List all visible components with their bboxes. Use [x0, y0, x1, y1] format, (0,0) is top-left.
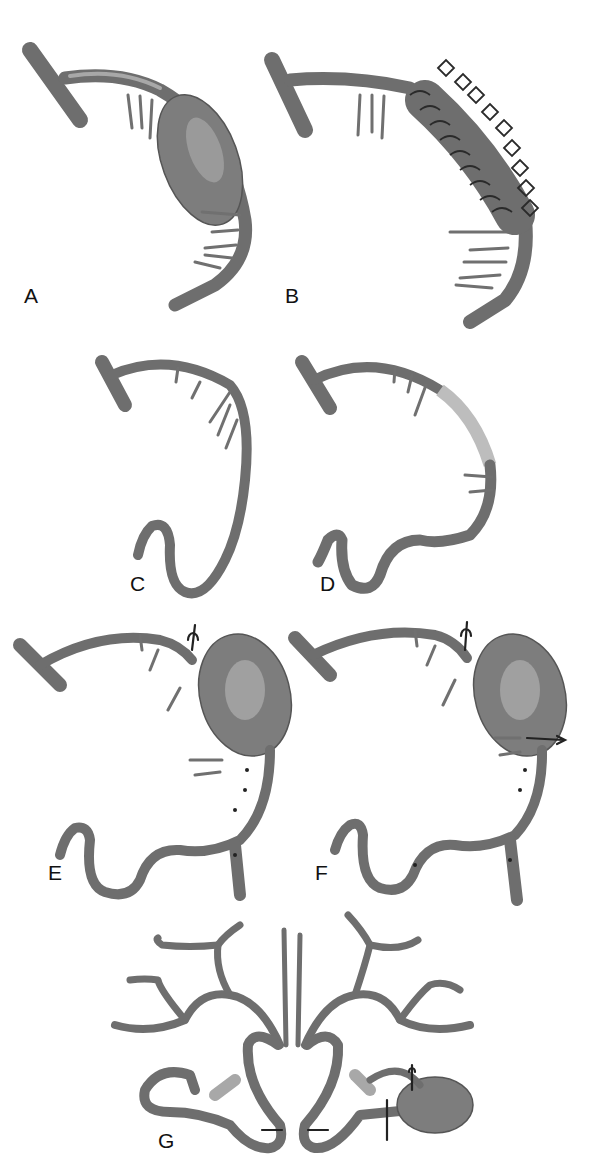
interposition-graft-illustration — [300, 330, 593, 610]
panel-g: G — [100, 900, 500, 1172]
panel-label-c: C — [130, 573, 145, 594]
panel-label-e: E — [48, 862, 62, 883]
proximal-clip-bypass-illustration — [30, 610, 290, 910]
panel-label-g: G — [158, 1130, 174, 1151]
panel-label-a: A — [24, 285, 38, 306]
graft-segment — [440, 390, 490, 465]
panel-a: A — [0, 0, 290, 320]
trapping-bypass-illustration — [295, 610, 593, 910]
panel-d: D — [300, 330, 593, 610]
panel-f: F — [295, 610, 593, 910]
panel-label-d: D — [320, 573, 335, 594]
coiled-wrap-illustration — [260, 0, 593, 330]
wrap-rings-icon — [410, 60, 538, 216]
panel-b: B — [260, 0, 593, 330]
panel-label-f: F — [315, 862, 328, 883]
clip-icon — [188, 625, 198, 650]
panel-label-b: B — [285, 285, 299, 306]
fusiform-aneurysm-illustration — [0, 0, 290, 320]
excision-reconstruction-illustration — [80, 330, 280, 610]
panel-e: E — [30, 610, 290, 910]
panel-c: C — [80, 330, 280, 610]
